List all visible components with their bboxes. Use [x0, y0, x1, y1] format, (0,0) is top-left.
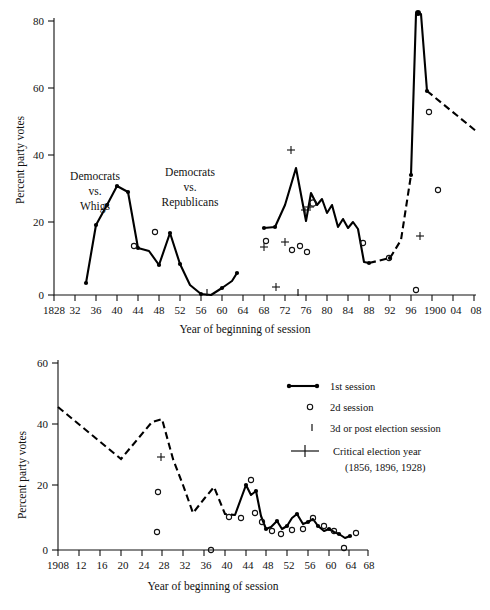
top-series-dashed-tail — [427, 91, 476, 131]
bottom-xtick-1: 12 — [76, 559, 87, 571]
top-ytick-80: 80 — [33, 15, 45, 27]
top-ytick-60: 60 — [33, 82, 45, 94]
top-xtick-13: 80 — [322, 304, 334, 316]
top-x-axis-title: Year of beginning of session — [179, 323, 310, 336]
bottom-critical-election-markers — [157, 453, 165, 461]
bottom-xtick-10: 48 — [263, 559, 275, 571]
top-y-ticks: 80 60 40 20 0 — [33, 15, 54, 301]
top-xtick-0: 1828 — [43, 304, 66, 316]
bottom-xtick-4: 24 — [139, 559, 151, 571]
top-xtick-1: 32 — [70, 304, 81, 316]
top-annotation-democrats-vs-republicans: Democrats vs. Republicans — [162, 166, 219, 209]
top-y-axis-title: Percent party votes — [14, 115, 27, 204]
top-xtick-4: 44 — [133, 304, 145, 316]
legend: 1st session 2d session 3d or post electi… — [287, 381, 442, 474]
bottom-panel-svg: Percent party votes 60 40 20 0 — [0, 340, 490, 610]
legend-3d-session: 3d or post election session — [312, 423, 442, 434]
legend-label-critical-election-year: Critical election year — [333, 446, 422, 457]
top-xtick-2: 36 — [91, 304, 103, 316]
bottom-xtick-3: 20 — [118, 559, 130, 571]
top-xtick-15: 88 — [364, 304, 376, 316]
top-xtick-10: 68 — [259, 304, 271, 316]
bottom-xtick-0: 1908 — [47, 559, 70, 571]
legend-critical-election-year: Critical election year (1856, 1896, 1928… — [291, 445, 426, 474]
legend-label-1st-session: 1st session — [330, 381, 376, 392]
bottom-y-axis-title: Percent party votes — [16, 430, 29, 519]
legend-sublabel-critical-years: (1856, 1896, 1928) — [345, 462, 426, 474]
top-panel-svg: Percent party votes 80 60 40 20 0 — [0, 0, 490, 340]
top-ytick-20: 20 — [33, 216, 45, 228]
ann-dw-line3: Whigs — [80, 200, 111, 213]
top-ytick-0: 0 — [39, 289, 45, 301]
ann-dw-line2: vs. — [88, 185, 101, 197]
top-panel: Percent party votes 80 60 40 20 0 — [0, 0, 490, 340]
top-ytick-40: 40 — [33, 149, 45, 161]
top-1st-session-dots — [84, 10, 429, 296]
top-series-1st-session-mid — [264, 168, 369, 263]
top-xtick-16: 92 — [385, 304, 396, 316]
bottom-xtick-12: 56 — [305, 559, 317, 571]
bottom-xtick-6: 32 — [180, 559, 191, 571]
ann-dr-line2: vs. — [183, 181, 196, 193]
top-x-tick-labels: 1828 32 36 40 44 48 52 56 60 64 68 72 76… — [43, 304, 482, 316]
legend-1st-session: 1st session — [287, 381, 376, 392]
bottom-series-1st-session-dashed — [58, 407, 235, 515]
bottom-ytick-20: 20 — [37, 479, 49, 491]
top-xtick-6: 52 — [175, 304, 186, 316]
top-xtick-14: 84 — [343, 304, 355, 316]
bottom-y-ticks: 60 40 20 0 — [37, 357, 58, 556]
bottom-xtick-8: 40 — [222, 559, 234, 571]
bottom-xtick-9: 44 — [243, 559, 255, 571]
top-xtick-3: 40 — [112, 304, 124, 316]
top-xtick-17: 96 — [406, 304, 418, 316]
legend-2d-session: 2d session — [307, 402, 374, 413]
bottom-xtick-2: 16 — [97, 559, 109, 571]
top-series-dashed-rise — [390, 175, 411, 258]
bottom-x-axis-title: Year of beginning of session — [147, 580, 278, 593]
bottom-x-tick-labels: 1908 12 16 20 24 28 32 36 40 44 48 52 56… — [47, 559, 375, 571]
bottom-ytick-40: 40 — [37, 418, 49, 430]
ann-dw-line1: Democrats — [70, 170, 120, 182]
legend-label-3d-session: 3d or post election session — [330, 423, 442, 434]
top-xtick-11: 72 — [280, 304, 291, 316]
top-xtick-20: 08 — [471, 304, 483, 316]
top-xtick-9: 64 — [238, 304, 250, 316]
bottom-ytick-0: 0 — [43, 544, 49, 556]
top-series-spike-1896 — [411, 14, 427, 175]
bottom-xtick-5: 28 — [159, 559, 171, 571]
top-xtick-12: 76 — [301, 304, 313, 316]
top-xtick-7: 56 — [196, 304, 208, 316]
bottom-xtick-14: 64 — [346, 559, 358, 571]
top-x-ticks — [54, 295, 474, 301]
bottom-axes — [58, 360, 368, 550]
top-xtick-19: 04 — [451, 304, 463, 316]
bottom-ytick-60: 60 — [37, 357, 49, 369]
ann-dr-line1: Democrats — [165, 166, 215, 178]
top-xtick-18: 1900 — [424, 304, 447, 316]
top-axes — [54, 18, 476, 295]
bottom-panel: Percent party votes 60 40 20 0 — [0, 340, 490, 610]
top-xtick-8: 60 — [217, 304, 229, 316]
bottom-xtick-11: 52 — [284, 559, 295, 571]
bottom-xtick-13: 60 — [326, 559, 338, 571]
top-critical-election-markers — [260, 146, 424, 291]
ann-dr-line3: Republicans — [162, 196, 219, 209]
bottom-xtick-7: 36 — [201, 559, 213, 571]
bottom-xtick-15: 68 — [364, 559, 376, 571]
top-xtick-5: 48 — [154, 304, 166, 316]
legend-label-2d-session: 2d session — [330, 402, 374, 413]
top-annotation-democrats-vs-whigs: Democrats vs. Whigs — [70, 170, 120, 213]
